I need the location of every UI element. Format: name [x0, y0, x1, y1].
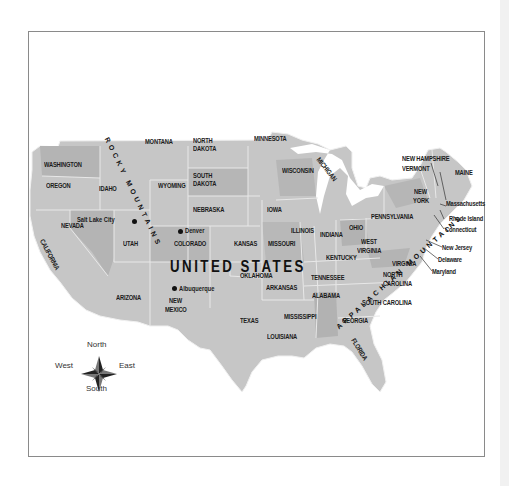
compass-north-label: North	[87, 340, 107, 349]
compass-west-label: West	[55, 361, 73, 370]
label-albuquerque: Albuquerque	[179, 285, 214, 292]
country-label: UNITED STATES	[170, 257, 306, 277]
city-dot-albuquerque	[172, 286, 177, 291]
compass-south-label: South	[86, 384, 107, 393]
label-denver: Denver	[185, 227, 204, 234]
compass-east-label: East	[119, 361, 135, 370]
city-dot-denver	[178, 229, 183, 234]
city-dot-salt-lake-city	[132, 219, 137, 224]
label-salt-lake-city: Salt Lake City	[77, 216, 115, 223]
